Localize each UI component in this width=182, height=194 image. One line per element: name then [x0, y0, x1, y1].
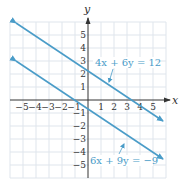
y-tick: −4 [73, 147, 87, 157]
y-tick: −3 [73, 134, 87, 144]
y-tick: 5 [80, 30, 86, 40]
x-tick: 5 [150, 102, 156, 112]
line-chart: x y −5 −4 −3 −2 −1 1 2 3 4 5 5 4 3 2 1 −… [0, 0, 182, 194]
annotation-eq2: 6x + 9y = −9 [89, 144, 158, 166]
y-tick: 1 [80, 82, 86, 92]
y-tick: −1 [73, 108, 86, 118]
equation-label-1: 4x + 6y = 12 [95, 57, 161, 68]
x-tick: 2 [111, 102, 117, 112]
y-tick: 3 [80, 56, 86, 66]
y-tick: 4 [80, 43, 86, 53]
equation-label-2: 6x + 9y = −9 [90, 155, 158, 166]
x-tick: −2 [54, 102, 67, 112]
y-tick: −2 [73, 121, 86, 131]
chart-canvas: x y −5 −4 −3 −2 −1 1 2 3 4 5 5 4 3 2 1 −… [0, 0, 182, 194]
x-tick: 1 [98, 102, 104, 112]
y-tick: −5 [73, 160, 87, 170]
leader-line-1 [109, 69, 113, 82]
y-axis-label: y [83, 3, 91, 16]
x-tick: 3 [124, 102, 130, 112]
x-axis-label: x [172, 94, 179, 107]
x-tick: −5 [15, 102, 29, 112]
x-tick: −3 [41, 102, 55, 112]
x-tick: −4 [28, 102, 42, 112]
y-tick: 2 [80, 69, 86, 79]
